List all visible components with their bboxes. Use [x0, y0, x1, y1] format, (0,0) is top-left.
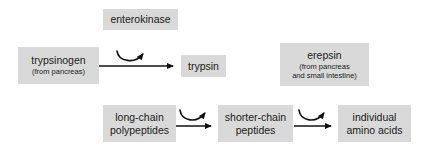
node-individual-amino-acids-line1: individual — [353, 111, 397, 123]
node-erepsin-label: erepsin — [307, 49, 341, 61]
node-erepsin: erepsin (from pancreas and small intesti… — [280, 43, 369, 86]
node-enterokinase-label: enterokinase — [110, 13, 170, 25]
node-shorter-chain-peptides-line2: peptides — [236, 124, 276, 136]
node-erepsin-sublabel-line1: (from pancreas — [299, 62, 349, 71]
node-trypsin: trypsin — [181, 55, 226, 77]
node-trypsinogen: trypsinogen (from pancreas) — [18, 47, 99, 84]
node-individual-amino-acids-line2: amino acids — [346, 124, 402, 136]
node-trypsinogen-sublabel: (from pancreas) — [32, 67, 85, 76]
node-trypsin-label: trypsin — [188, 60, 219, 72]
reaction-arrow-polypeptides-to-peptides — [176, 110, 211, 126]
reaction-arrow-peptides-to-amino-acids — [294, 110, 331, 126]
node-erepsin-sublabel-line2: and small intestine) — [292, 71, 357, 80]
node-individual-amino-acids: individual amino acids — [338, 105, 411, 142]
node-trypsinogen-label: trypsinogen — [31, 54, 85, 66]
node-shorter-chain-peptides: shorter-chain peptides — [218, 105, 293, 142]
node-shorter-chain-peptides-line1: shorter-chain — [225, 111, 286, 123]
node-long-chain-polypeptides-line2: polypeptides — [110, 124, 169, 136]
node-enterokinase: enterokinase — [103, 9, 178, 30]
diagram-canvas: enterokinase trypsinogen (from pancreas)… — [0, 0, 424, 152]
reaction-arrow-trypsinogen-to-trypsin — [99, 51, 173, 66]
node-long-chain-polypeptides-line1: long-chain — [115, 111, 163, 123]
node-long-chain-polypeptides: long-chain polypeptides — [103, 105, 176, 142]
